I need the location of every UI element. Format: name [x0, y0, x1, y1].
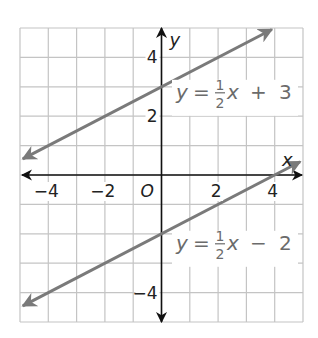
eq-denominator: 2 — [216, 95, 225, 111]
labels: −4−22442−4Oyxy=12x+3y=12x−2 — [34, 29, 298, 303]
x-tick-label: −2 — [90, 181, 115, 201]
y-tick-label: −4 — [132, 283, 157, 303]
eq-variable: x — [226, 231, 239, 255]
x-tick-label: 4 — [267, 181, 278, 201]
x-tick-label: 2 — [211, 181, 222, 201]
y-axis-label: y — [169, 29, 181, 50]
origin-label: O — [141, 181, 154, 201]
eq-constant: 3 — [279, 80, 292, 104]
eq-lhs: y — [175, 231, 189, 255]
y-tick-label: 2 — [147, 106, 158, 126]
eq-lhs: y — [175, 80, 189, 104]
axes — [22, 28, 302, 322]
x-tick-label: −4 — [34, 181, 59, 201]
eq-equals: = — [193, 80, 210, 104]
eq-variable: x — [226, 80, 239, 104]
eq-denominator: 2 — [216, 246, 225, 262]
x-axis-label: x — [281, 149, 293, 170]
eq-numerator: 1 — [216, 228, 225, 244]
coordinate-plane: −4−22442−4Oyxy=12x+3y=12x−2 — [0, 0, 318, 338]
eq-operator: − — [250, 231, 267, 255]
y-tick-label: 4 — [147, 47, 158, 67]
eq-equals: = — [193, 231, 210, 255]
eq-operator: + — [250, 80, 267, 104]
eq-numerator: 1 — [216, 77, 225, 93]
eq-constant: 2 — [279, 231, 292, 255]
